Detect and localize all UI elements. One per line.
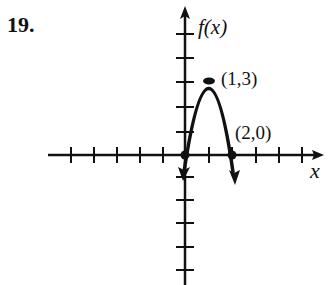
root-label: (2,0) bbox=[235, 122, 271, 144]
origin-point bbox=[181, 151, 190, 160]
y-axis-label: f(x) bbox=[198, 15, 227, 39]
graph: f(x) x (1,3) (2,0) bbox=[0, 0, 330, 285]
root-point bbox=[228, 151, 237, 160]
x-axis-label: x bbox=[309, 158, 320, 183]
vertex-point bbox=[203, 78, 215, 85]
vertex-label: (1,3) bbox=[221, 68, 257, 90]
